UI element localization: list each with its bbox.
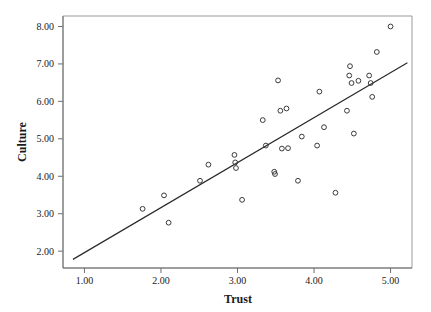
y-axis-title: Culture bbox=[15, 121, 29, 161]
scatter-point bbox=[370, 94, 375, 99]
x-tick-label: 3.00 bbox=[229, 275, 247, 286]
frame-box bbox=[63, 16, 412, 268]
scatter-plot-figure: 1.002.003.004.005.00 2.003.004.005.006.0… bbox=[0, 0, 431, 312]
scatter-point bbox=[317, 89, 322, 94]
scatter-point bbox=[356, 78, 361, 83]
scatter-point bbox=[166, 220, 171, 225]
regression-line bbox=[73, 63, 407, 260]
scatter-point bbox=[296, 178, 301, 183]
scatter-point bbox=[315, 143, 320, 148]
scatter-point bbox=[351, 131, 356, 136]
scatter-point bbox=[322, 125, 327, 130]
scatter-point bbox=[140, 206, 145, 211]
x-axis-title: Trust bbox=[224, 292, 252, 306]
scatter-point bbox=[388, 24, 393, 29]
scatter-point bbox=[278, 108, 283, 113]
scatter-point bbox=[348, 64, 353, 69]
scatter-point bbox=[284, 106, 289, 111]
scatter-point bbox=[286, 146, 291, 151]
x-tick-label: 4.00 bbox=[305, 275, 323, 286]
y-tick-label: 4.00 bbox=[37, 171, 55, 182]
scatter-point bbox=[240, 197, 245, 202]
x-tick-label: 5.00 bbox=[382, 275, 400, 286]
scatter-point bbox=[279, 146, 284, 151]
scatter-point bbox=[234, 166, 239, 171]
x-axis-ticks: 1.002.003.004.005.00 bbox=[76, 268, 400, 286]
y-axis-ticks: 2.003.004.005.006.007.008.00 bbox=[37, 21, 64, 257]
scatter-point bbox=[162, 193, 167, 198]
scatter-point bbox=[198, 178, 203, 183]
scatter-point bbox=[299, 134, 304, 139]
chart-canvas: 1.002.003.004.005.00 2.003.004.005.006.0… bbox=[0, 0, 431, 312]
y-tick-label: 8.00 bbox=[37, 21, 55, 32]
scatter-point bbox=[374, 50, 379, 55]
y-tick-label: 6.00 bbox=[37, 96, 55, 107]
plot-frame bbox=[63, 16, 412, 268]
scatter-point bbox=[345, 108, 350, 113]
scatter-point bbox=[349, 81, 354, 86]
scatter-point bbox=[260, 118, 265, 123]
scatter-point bbox=[232, 153, 237, 158]
data-points bbox=[140, 24, 393, 225]
scatter-point bbox=[333, 190, 338, 195]
fit-line-segment bbox=[73, 63, 407, 260]
x-tick-label: 1.00 bbox=[76, 275, 94, 286]
y-tick-label: 2.00 bbox=[37, 246, 55, 257]
y-tick-label: 7.00 bbox=[37, 58, 55, 69]
y-tick-label: 3.00 bbox=[37, 208, 55, 219]
scatter-point bbox=[206, 162, 211, 167]
scatter-point bbox=[367, 73, 372, 78]
scatter-point bbox=[347, 73, 352, 78]
scatter-point bbox=[276, 78, 281, 83]
y-tick-label: 5.00 bbox=[37, 133, 55, 144]
x-tick-label: 2.00 bbox=[152, 275, 170, 286]
